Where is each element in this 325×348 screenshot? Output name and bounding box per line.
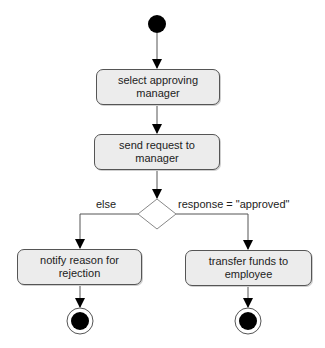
- edge-else: [80, 214, 138, 248]
- activity-label-line1: select approving: [118, 74, 198, 87]
- edge-approved: [176, 214, 248, 249]
- activity-transfer-funds: transfer funds to employee: [185, 250, 312, 286]
- guard-approved-label: response = "approved": [178, 198, 289, 210]
- activity-label-line1: notify reason for: [40, 254, 119, 267]
- activity-label-line2: manager: [119, 152, 195, 165]
- activity-label-line2: rejection: [40, 267, 119, 280]
- activity-notify-rejection: notify reason for rejection: [17, 249, 142, 285]
- decision-node: [138, 199, 176, 229]
- guard-else-label: else: [96, 198, 116, 210]
- diagram-canvas: [0, 0, 325, 348]
- activity-label-line2: manager: [118, 87, 198, 100]
- final-node-right: [235, 308, 261, 334]
- activity-label-line1: send request to: [119, 139, 195, 152]
- final-node-left: [67, 308, 93, 334]
- activity-send-request: send request to manager: [94, 134, 220, 170]
- activity-label-line1: transfer funds to: [209, 255, 289, 268]
- activity-label-line2: employee: [209, 268, 289, 281]
- activity-select-approving-manager: select approving manager: [96, 69, 220, 105]
- initial-node: [148, 15, 166, 33]
